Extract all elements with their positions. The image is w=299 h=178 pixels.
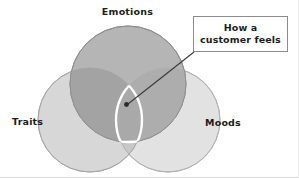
venn-label-emotions-text: Emotions (102, 6, 153, 17)
venn-diagram-figure: Emotions Traits Moods How a customer fee… (0, 0, 299, 178)
callout-text: How a customer feels (196, 22, 285, 46)
venn-label-moods: Moods (205, 117, 241, 128)
venn-label-traits: Traits (12, 116, 43, 127)
intersection-marker-dot (124, 102, 129, 107)
callout-box: How a customer feels (193, 16, 288, 52)
